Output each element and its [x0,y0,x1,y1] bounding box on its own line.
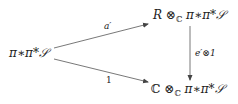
node-top-right: R ⊗ℂ π∗π*𝒮 [153,9,225,24]
node-top-right-suffix: π∗π*𝒮 [182,8,225,22]
arrow-label-one: 1 [106,76,112,85]
node-top-right-prefix: R ⊗ [153,8,176,22]
node-left: π∗π*𝒮 [9,47,48,59]
arrow-one [54,59,148,82]
node-left-text: π∗π*𝒮 [9,46,48,60]
node-bottom-right-suffix: π∗π*𝒮 [181,82,224,96]
arrow-label-a-prime: a′ [104,22,111,31]
arrow-label-e-prime-tensor-one: e′⊗1 [195,49,216,58]
node-bottom-right: ℂ ⊗ℂ π∗π*𝒮 [151,83,224,98]
node-bottom-right-prefix: ℂ ⊗ [151,82,174,96]
arrow-a-prime [54,24,148,48]
